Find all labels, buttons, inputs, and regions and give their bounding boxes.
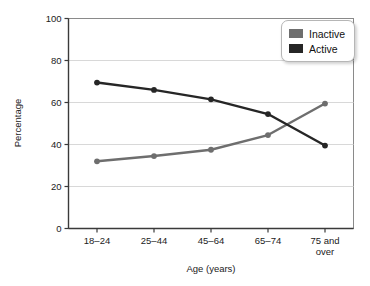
legend-swatch-inactive (289, 29, 303, 38)
x-tick-label: 25–44 (141, 235, 167, 246)
y-axis-title: Percentage (12, 99, 23, 148)
data-point-inactive (265, 132, 271, 138)
chart-legend[interactable]: Inactive Active (281, 20, 355, 62)
y-tick-label: 100 (46, 13, 62, 24)
data-point-inactive (208, 147, 214, 153)
x-tick-label: 75 andover (310, 235, 339, 257)
legend-swatch-active (289, 44, 303, 53)
data-point-active (322, 143, 328, 149)
data-point-active (94, 80, 100, 86)
data-point-inactive (94, 158, 100, 164)
data-point-active (265, 111, 271, 117)
data-point-active (208, 96, 214, 102)
legend-label-active: Active (309, 43, 338, 55)
x-axis-title: Age (years) (186, 263, 235, 274)
y-tick-label: 0 (56, 223, 61, 234)
legend-item-active[interactable]: Active (289, 41, 345, 56)
y-axis-ticks: 020406080100 (46, 13, 69, 234)
data-point-inactive (151, 153, 157, 159)
x-axis-ticks: 18–2425–4445–6465–7475 andover (84, 229, 340, 257)
y-tick-label: 80 (51, 55, 62, 66)
x-tick-label: 65–74 (255, 235, 281, 246)
data-point-inactive (322, 101, 328, 107)
chart-container: 020406080100 18–2425–4445–6465–7475 ando… (0, 0, 370, 286)
y-tick-label: 40 (51, 139, 62, 150)
legend-item-inactive[interactable]: Inactive (289, 26, 345, 41)
y-tick-label: 60 (51, 97, 62, 108)
x-tick-label: 18–24 (84, 235, 110, 246)
legend-label-inactive: Inactive (309, 28, 345, 40)
x-tick-label: 45–64 (198, 235, 224, 246)
y-tick-label: 20 (51, 181, 62, 192)
data-point-active (151, 87, 157, 93)
